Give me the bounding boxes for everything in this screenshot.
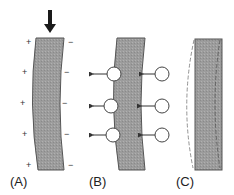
force-arrow-icon [44,10,56,33]
svg-text:−: − [64,67,69,77]
svg-text:+: + [26,37,31,47]
right-particles [141,67,169,142]
panel-label-c: (C) [176,175,194,188]
panel-b [93,38,169,170]
particle-circle [155,67,169,81]
panel-label-a: (A) [10,175,27,188]
svg-text:+: + [22,67,27,77]
plus-signs: + + + + + [20,37,31,170]
panel-label-b: (B) [89,175,106,188]
svg-text:−: − [62,98,67,108]
svg-text:−: − [68,37,73,47]
svg-text:+: + [22,129,27,139]
panel-a: + + + + + − − − − − [20,10,73,170]
particle-circle [155,128,169,142]
particle-circle [107,67,121,81]
bent-slab [32,38,64,170]
particle-circle [106,128,120,142]
panel-c [187,39,222,170]
particle-circle [155,99,169,113]
minus-signs: − − − − − [62,37,73,170]
svg-text:+: + [26,160,31,170]
svg-text:+: + [20,98,25,108]
svg-text:−: − [68,160,73,170]
dashed-original-outline-left [187,40,194,168]
diagram-canvas: + + + + + − − − − − [0,0,234,195]
svg-text:−: − [64,129,69,139]
left-particles [93,67,121,142]
particle-circle [104,99,118,113]
